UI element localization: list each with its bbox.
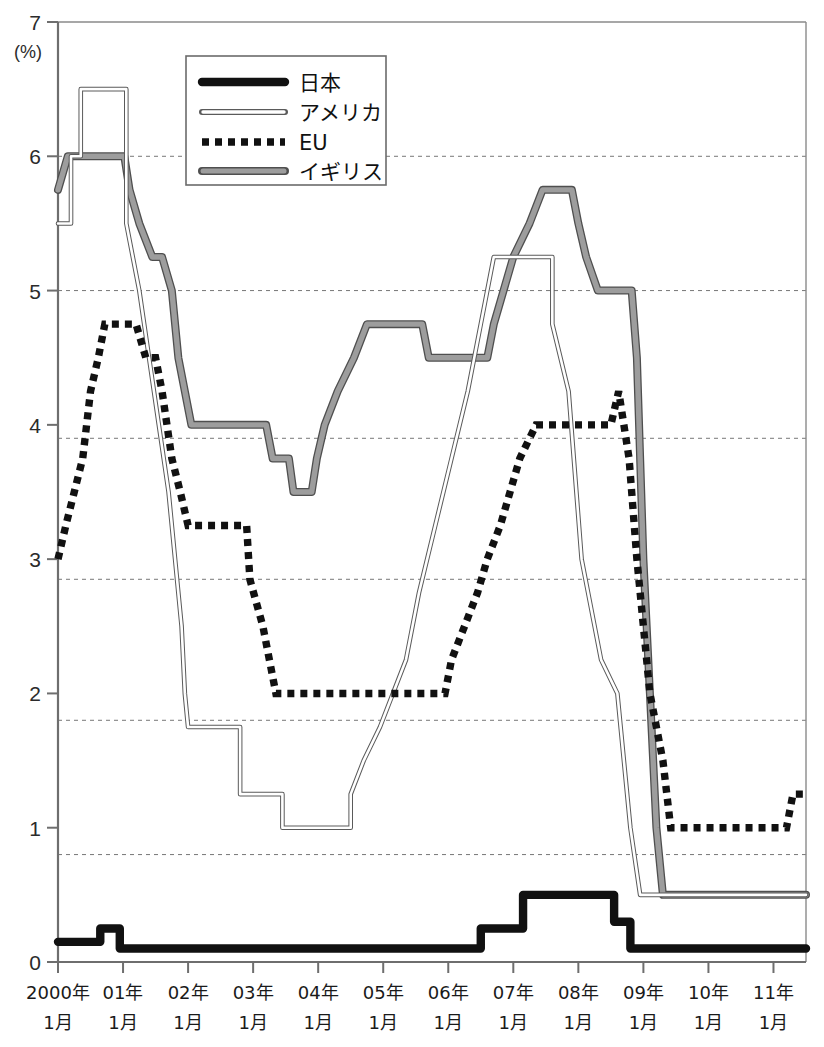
x-tick-label-month-2003: 1月 [238,1012,267,1033]
legend-label-3: イギリス [299,160,383,184]
x-tick-label-month-2002: 1月 [173,1012,202,1033]
y-tick-label-1: 1 [29,817,41,840]
x-tick-label-month-2011: 1月 [759,1012,788,1033]
x-tick-label-month-2001: 1月 [108,1012,137,1033]
x-tick-label-month-2006: 1月 [434,1012,463,1033]
x-tick-label-year-2010: 10年 [688,982,729,1003]
y-tick-label-7: 7 [29,11,41,34]
y-tick-label-0: 0 [29,951,41,974]
x-tick-label-month-2000: 1月 [43,1012,72,1033]
x-tick-label-year-2011: 11年 [753,982,794,1003]
x-tick-label-year-2003: 03年 [233,982,274,1003]
x-tick-label-month-2007: 1月 [499,1012,528,1033]
y-axis-unit-label: (%) [14,42,42,62]
y-tick-label-6: 6 [29,145,41,168]
x-tick-label-month-2008: 1月 [564,1012,593,1033]
legend-label-1: アメリカ [299,101,382,125]
x-tick-label-year-2002: 02年 [168,982,209,1003]
y-tick-label-2: 2 [29,682,41,705]
x-tick-label-month-2005: 1月 [368,1012,397,1033]
y-tick-label-4: 4 [29,414,41,437]
legend-label-0: 日本 [299,71,341,95]
x-tick-label-year-2004: 04年 [298,982,339,1003]
y-tick-label-5: 5 [29,280,41,303]
x-tick-label-year-2000: 2000年 [26,982,90,1003]
x-tick-label-year-2001: 01年 [103,982,144,1003]
policy-rate-line-chart: 01234567(%) 2000年1月01年1月02年1月03年1月04年1月0… [0,0,824,1047]
x-tick-label-month-2010: 1月 [694,1012,723,1033]
x-tick-label-year-2009: 09年 [623,982,664,1003]
x-tick-label-year-2005: 05年 [363,982,404,1003]
x-tick-label-month-2009: 1月 [629,1012,658,1033]
chart-canvas: 01234567(%) 2000年1月01年1月02年1月03年1月04年1月0… [0,0,824,1047]
chart-legend: 日本アメリカEUイギリス [186,56,386,185]
y-tick-label-3: 3 [29,548,41,571]
x-tick-label-year-2006: 06年 [428,982,469,1003]
x-tick-label-year-2008: 08年 [558,982,599,1003]
legend-label-2: EU [299,131,328,155]
x-tick-label-month-2004: 1月 [303,1012,332,1033]
x-tick-label-year-2007: 07年 [493,982,534,1003]
